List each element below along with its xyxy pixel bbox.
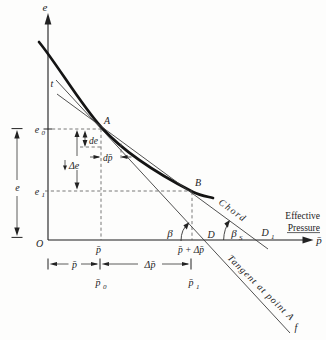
e0-label: e <box>35 124 40 135</box>
chord-line-name: Chord <box>217 197 249 224</box>
p-span-label: p̄ <box>71 259 77 270</box>
y-axis-label: e <box>43 1 48 13</box>
e-span-up-arrow-icon <box>14 130 19 139</box>
delta-p-right-arrow-icon <box>182 262 190 266</box>
dp-right-arrow-icon <box>94 155 101 159</box>
e1-subscript: 1 <box>42 191 46 199</box>
x-axis-arrow-icon <box>303 237 314 244</box>
compression-curve-figure: e p̄ Effective Pressure O t f Tangent at… <box>0 0 326 340</box>
point-d1-label: D <box>260 227 269 238</box>
pressure-at-a-label: p̄ <box>95 244 101 255</box>
e1-label: e <box>35 186 40 197</box>
point-b-label: B <box>195 177 201 188</box>
p1-label: p̄ <box>188 277 194 288</box>
x-axis-label: p̄ <box>315 234 322 246</box>
origin-label: O <box>36 238 43 249</box>
delta-e-down-arrow-icon <box>75 183 80 190</box>
dp-label: dp̄ <box>103 153 113 163</box>
delta-p-span-label: Δp̄ <box>144 259 156 270</box>
tangent-bottom-label: f <box>295 322 299 333</box>
pressure-at-b-label: p̄ + Δp̄ <box>177 245 204 255</box>
beta-s-label: β <box>230 227 237 239</box>
tangent-line <box>56 80 290 333</box>
p-span-right-arrow-icon <box>91 262 99 266</box>
de-label: de <box>89 136 98 146</box>
p1-subscript: 1 <box>196 283 200 291</box>
p0-subscript: 0 <box>103 283 107 291</box>
compression-curve <box>39 42 213 198</box>
x-axis-title-line2: Pressure <box>288 223 320 233</box>
point-d-label: D <box>206 229 215 240</box>
de-down-arrow-icon <box>83 140 88 147</box>
point-a-label: A <box>103 115 111 126</box>
y-axis-arrow-icon <box>45 13 52 25</box>
delta-e-small-arrow-icon <box>63 166 67 171</box>
point-d1-subscript: 1 <box>271 233 275 241</box>
dp-left-arrow-icon <box>121 155 128 159</box>
e-span-label: e <box>15 182 20 193</box>
tangent-line-name: Tangent at point A <box>226 253 297 323</box>
de-up-arrow-icon <box>83 131 88 138</box>
delta-p-left-arrow-icon <box>102 262 110 266</box>
e0-subscript: 0 <box>42 129 46 137</box>
x-axis-title-line1: Effective <box>285 211 320 221</box>
delta-e-up-arrow-icon <box>75 130 80 137</box>
e-span-down-arrow-icon <box>14 228 19 237</box>
chord-line <box>57 94 268 249</box>
beta-s-subscript: S <box>239 234 243 242</box>
tangent-top-label: t <box>51 78 54 89</box>
beta-s-arc-arrow-icon <box>224 220 230 228</box>
p-span-left-arrow-icon <box>50 262 58 266</box>
p0-label: p̄ <box>95 277 101 288</box>
beta-label: β <box>166 227 173 239</box>
delta-e-label: Δe <box>68 160 80 171</box>
